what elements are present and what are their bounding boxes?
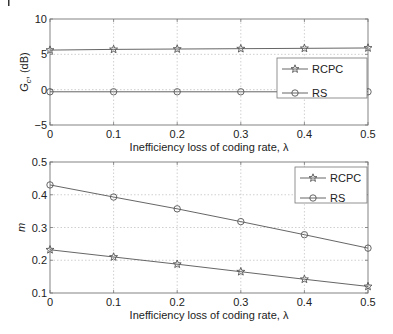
x-tick-label: 0.2 xyxy=(170,296,185,308)
x-tick-label: 0.1 xyxy=(106,296,121,308)
x-tick-label: 0.3 xyxy=(233,128,248,140)
legend-label: RS xyxy=(312,87,327,99)
legend-label: RCPC xyxy=(330,172,361,184)
x-tick-label: 0 xyxy=(47,128,53,140)
gain-chart: 00.10.20.30.40.5−50510Inefficiency loss … xyxy=(18,13,376,153)
x-axis-label: Inefficiency loss of coding rate, λ xyxy=(130,309,289,321)
x-tick-label: 0.4 xyxy=(297,296,312,308)
y-tick-label: 0.3 xyxy=(32,222,47,234)
corner-mark xyxy=(8,0,10,6)
m-chart: 00.10.20.30.40.50.10.20.30.40.5Inefficie… xyxy=(15,156,376,321)
y-tick-label: 5 xyxy=(41,48,47,60)
y-tick-label: 0.5 xyxy=(32,156,47,168)
y-tick-label: −5 xyxy=(34,119,47,131)
legend: RCPCRS xyxy=(277,58,367,99)
series-rcpc xyxy=(46,44,372,54)
y-tick-label: 0.1 xyxy=(32,287,47,299)
x-tick-label: 0.5 xyxy=(360,128,375,140)
y-tick-label: 0.2 xyxy=(32,254,47,266)
x-tick-label: 0.5 xyxy=(360,296,375,308)
y-tick-label: 10 xyxy=(35,13,47,25)
x-tick-label: 0 xyxy=(47,296,53,308)
y-axis-label: Gc, (dB) xyxy=(18,52,33,91)
legend-label: RS xyxy=(330,192,345,204)
x-tick-label: 0.2 xyxy=(170,128,185,140)
y-axis-label: m xyxy=(15,223,27,232)
x-tick-label: 0.1 xyxy=(106,128,121,140)
legend-label: RCPC xyxy=(312,63,343,75)
x-tick-label: 0.3 xyxy=(233,296,248,308)
series-rcpc xyxy=(46,246,372,290)
legend: RCPCRS xyxy=(295,167,367,204)
y-tick-label: 0 xyxy=(41,84,47,96)
x-tick-label: 0.4 xyxy=(297,128,312,140)
x-axis-label: Inefficiency loss of coding rate, λ xyxy=(130,141,289,153)
figure: 00.10.20.30.40.5−50510Inefficiency loss … xyxy=(0,0,393,334)
y-tick-label: 0.4 xyxy=(32,189,47,201)
